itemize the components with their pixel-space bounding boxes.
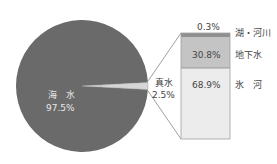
lakes-rivers-value: 0.3% bbox=[197, 22, 220, 32]
bar-segment-lakes-rivers bbox=[181, 33, 230, 37]
groundwater-label: 地下水 bbox=[235, 49, 262, 60]
glacier-label: 氷 河 bbox=[235, 79, 262, 90]
connector-line-top bbox=[148, 33, 181, 81]
lakes-rivers-label: 湖・河川 bbox=[235, 27, 271, 38]
groundwater-value: 30.8% bbox=[192, 50, 221, 60]
bar-segment-glacier bbox=[181, 68, 230, 139]
seawater-label: 海 水 bbox=[48, 89, 75, 100]
water-distribution-chart: 海 水 97.5% 真水 2.5% 0.3% 30.8% 68.9% 湖・河川 … bbox=[0, 0, 277, 164]
seawater-value: 97.5% bbox=[46, 103, 75, 113]
freshwater-value: 2.5% bbox=[152, 90, 175, 100]
glacier-value: 68.9% bbox=[192, 80, 221, 90]
freshwater-label: 真水 bbox=[155, 77, 173, 88]
